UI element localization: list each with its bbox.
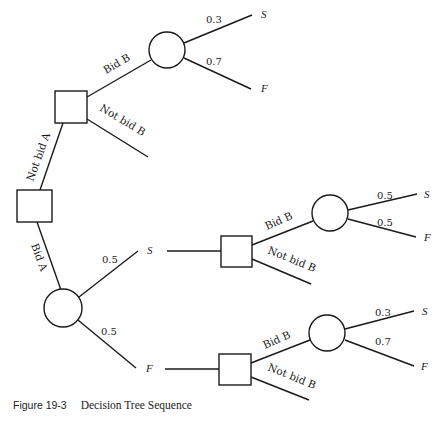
- figure-caption: Figure 19-3 Decision Tree Sequence: [13, 395, 192, 413]
- figure-title: Decision Tree Sequence: [81, 399, 192, 411]
- label-a-prob-f: 0.5: [101, 326, 117, 337]
- decision-tree-diagram: Not bid A Bid A Bid B Not bid B 0.3 0.7 …: [0, 0, 447, 422]
- decision-node-root: [17, 190, 52, 222]
- label-bot-outcome-f: F: [420, 360, 428, 372]
- label-top-not-bid-b: Not bid B: [98, 101, 148, 138]
- label-mid-not-bid-b: Not bid B: [266, 244, 318, 274]
- label-bot-prob-s: 0.3: [375, 307, 391, 318]
- label-bot-prob-f: 0.7: [375, 336, 391, 347]
- decision-node-after-failure: [219, 354, 251, 385]
- label-top-prob-s: 0.3: [206, 14, 222, 25]
- chance-node-mid-bid-b: [312, 195, 348, 231]
- label-mid-outcome-f: F: [423, 231, 431, 243]
- label-not-bid-a: Not bid A: [24, 130, 53, 182]
- label-mid-prob-f: 0.5: [377, 217, 393, 228]
- decision-node-after-success: [221, 236, 252, 267]
- chance-node-bot-bid-b: [309, 315, 345, 351]
- label-mid-prob-s: 0.5: [377, 190, 393, 201]
- label-a-outcome-f: F: [145, 362, 153, 374]
- label-bot-outcome-s: S: [422, 305, 428, 317]
- chance-node-top-bid-b: [149, 32, 185, 68]
- decision-node-not-bid-a: [55, 91, 87, 123]
- label-mid-outcome-s: S: [424, 188, 430, 200]
- label-a-prob-s: 0.5: [102, 254, 118, 265]
- label-top-bid-b: Bid B: [101, 51, 132, 76]
- label-top-outcome-s: S: [261, 8, 267, 20]
- chance-node-bid-a: [44, 289, 82, 327]
- label-bot-bid-b: Bid B: [261, 328, 292, 351]
- label-top-outcome-f: F: [260, 82, 268, 94]
- label-mid-bid-b: Bid B: [263, 209, 294, 232]
- label-top-prob-f: 0.7: [206, 56, 222, 67]
- label-a-outcome-s: S: [147, 244, 153, 256]
- figure-number: Figure 19-3: [13, 399, 67, 411]
- label-bid-a: Bid A: [29, 242, 50, 273]
